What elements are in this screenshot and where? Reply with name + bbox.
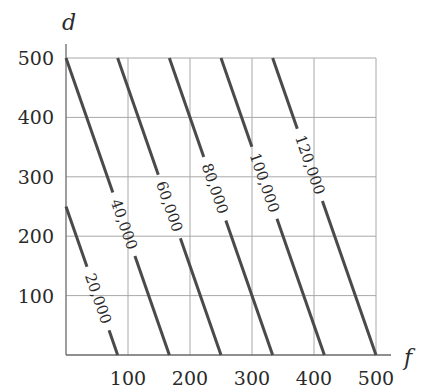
contour-line [226,220,273,355]
y-tick-labels: 100200300400500 [18,47,54,307]
contour-label: 120,000 [291,133,328,198]
x-tick-label: 500 [358,367,394,389]
contour-label: 60,000 [152,179,186,234]
y-tick-label: 100 [18,285,54,307]
contour-chart: 20,00040,00060,00080,000100,000120,000 1… [0,0,423,392]
x-tick-label: 400 [296,367,332,389]
contour-labels: 20,00040,00060,00080,000100,000120,000 [81,133,329,327]
x-tick-labels: 100200300400500 [110,367,394,389]
contour-line [273,58,298,129]
contour-line [109,330,118,355]
y-axis-label: d [62,10,76,35]
contour-label: 100,000 [246,150,283,215]
x-tick-label: 100 [110,367,146,389]
contour-line [66,58,113,193]
contour-line [221,58,252,147]
contour-line [135,256,169,355]
x-tick-label: 300 [234,367,270,389]
y-tick-label: 400 [18,106,54,128]
x-axis-label: f [402,345,416,370]
contour-label: 80,000 [198,161,232,216]
y-tick-label: 500 [18,47,54,69]
x-tick-label: 200 [172,367,208,389]
y-tick-label: 200 [18,225,54,247]
contour-label: 20,000 [81,271,115,326]
contour-line [118,58,159,175]
contour-line [169,58,203,157]
contour-line [180,238,221,355]
y-tick-label: 300 [18,166,54,188]
contour-line [322,201,376,355]
contour-label: 40,000 [107,197,141,252]
contour-line [277,219,324,355]
